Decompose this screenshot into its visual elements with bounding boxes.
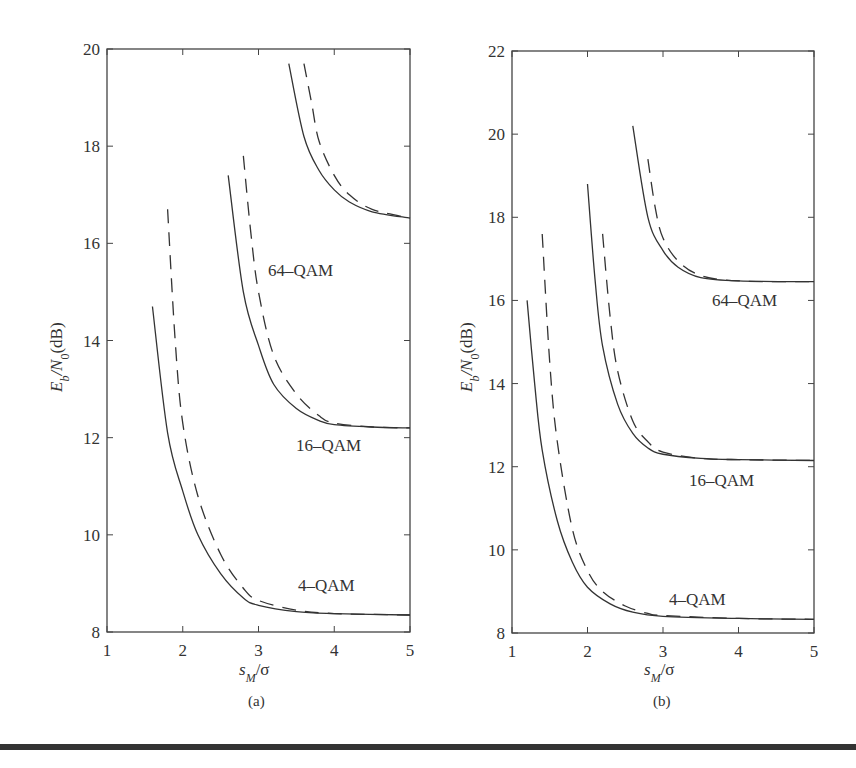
y-tick-label: 14	[83, 332, 101, 351]
page-bottom-rule	[0, 744, 856, 750]
y-tick-label: 14	[488, 375, 506, 394]
panel-a-xlabel: sM/σ	[239, 660, 270, 685]
panel-a-label-4qam: 4–QAM	[298, 576, 355, 595]
x-tick-label: 3	[659, 642, 668, 661]
panel-a-ylabel: Eb/N0(dB)	[47, 322, 72, 393]
panel-a-label-16qam: 16–QAM	[296, 436, 361, 455]
y-tick-label: 18	[83, 137, 100, 156]
curve-64-qam-dashed	[304, 64, 410, 218]
x-tick-label: 5	[810, 642, 819, 661]
x-tick-label: 2	[179, 641, 188, 660]
y-tick-label: 10	[488, 541, 505, 560]
y-tick-label: 10	[83, 526, 100, 545]
y-tick-label: 20	[83, 40, 100, 59]
curve-16-qam-dashed	[243, 156, 410, 428]
panel-b-label-4qam: 4–QAM	[669, 590, 726, 609]
panel-b-xlabel: sM/σ	[644, 660, 675, 685]
x-tick-label: 1	[508, 642, 517, 661]
x-tick-label: 5	[406, 641, 415, 660]
x-tick-label: 1	[103, 641, 112, 660]
x-tick-label: 4	[734, 642, 743, 661]
panel-a-plot-frame	[107, 49, 410, 632]
y-tick-label: 12	[83, 429, 100, 448]
y-tick-label: 20	[488, 125, 505, 144]
curve-64-qam-solid	[633, 126, 814, 282]
y-tick-label: 16	[488, 291, 505, 310]
panel-b-ticks: 12345810121416182022	[488, 42, 818, 661]
y-tick-label: 8	[497, 624, 506, 643]
curve-16-qam-solid	[588, 184, 815, 460]
x-tick-label: 2	[583, 642, 592, 661]
panel-b-curves	[527, 126, 814, 619]
y-tick-label: 12	[488, 458, 505, 477]
curve-16-qam-dashed	[603, 234, 814, 461]
panel-a: 123458101214161820 64–QAM 16–QAM 4–QAM s…	[47, 40, 414, 710]
panel-a-label-64qam: 64–QAM	[268, 261, 333, 280]
curve-16-qam-solid	[228, 175, 410, 428]
panel-b-caption: (b)	[653, 693, 671, 710]
panel-a-ticks: 123458101214161820	[83, 40, 414, 660]
panel-b-label-64qam: 64–QAM	[712, 291, 777, 310]
y-tick-label: 18	[488, 208, 505, 227]
y-tick-label: 22	[488, 42, 505, 61]
x-tick-label: 4	[330, 641, 339, 660]
y-tick-label: 16	[83, 234, 100, 253]
panel-b-plot-frame	[512, 51, 814, 633]
panel-a-curves	[152, 64, 410, 615]
curve-4-qam-solid	[152, 306, 410, 615]
panel-a-caption: (a)	[248, 693, 265, 710]
panel-b: 12345810121416182022 64–QAM 16–QAM 4–QAM…	[457, 42, 818, 710]
panel-b-ylabel: Eb/N0(dB)	[457, 322, 482, 393]
figure: 123458101214161820 64–QAM 16–QAM 4–QAM s…	[0, 0, 856, 768]
y-tick-label: 8	[92, 623, 101, 642]
panel-b-label-16qam: 16–QAM	[689, 471, 754, 490]
x-tick-label: 3	[254, 641, 263, 660]
